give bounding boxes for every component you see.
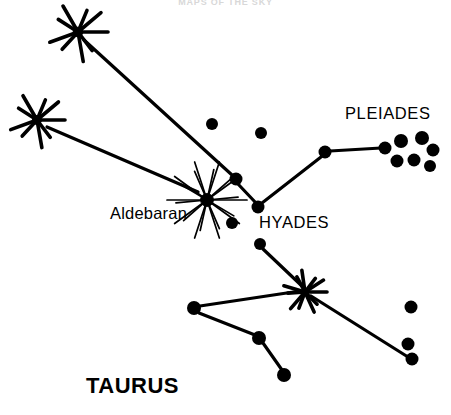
starburst-icon bbox=[11, 96, 65, 148]
constellation-line bbox=[199, 313, 255, 335]
star-map-canvas bbox=[0, 0, 451, 415]
star-dot bbox=[394, 134, 408, 148]
star-core bbox=[73, 27, 83, 37]
star-dot bbox=[187, 301, 201, 315]
constellation-line bbox=[330, 148, 381, 151]
label-aldebaran: Aldebaran bbox=[110, 205, 187, 222]
star-core bbox=[301, 288, 308, 295]
star-dot bbox=[254, 238, 266, 250]
star-dot bbox=[255, 127, 267, 139]
label-pleiades: PLEIADES bbox=[345, 105, 431, 122]
star-dot bbox=[252, 331, 266, 345]
star-core bbox=[33, 116, 42, 125]
star-dot bbox=[406, 353, 419, 366]
constellation-line bbox=[263, 343, 282, 370]
star-dot bbox=[415, 131, 429, 145]
constellation-line bbox=[200, 291, 300, 306]
star-dot bbox=[319, 146, 332, 159]
constellation-line bbox=[311, 296, 408, 357]
constellation-line bbox=[263, 249, 303, 287]
star-dot bbox=[226, 217, 238, 229]
constellation-line bbox=[262, 157, 321, 203]
star-dot bbox=[427, 144, 440, 157]
star-dot bbox=[402, 338, 415, 351]
label-hyades: HYADES bbox=[259, 214, 329, 231]
star-dot bbox=[206, 118, 218, 130]
star-dot bbox=[277, 368, 291, 382]
star-dot bbox=[230, 173, 243, 186]
label-taurus: TAURUS bbox=[86, 375, 179, 397]
star-dot bbox=[379, 142, 392, 155]
constellation-line bbox=[84, 40, 232, 175]
star-core bbox=[201, 194, 214, 207]
star-dot bbox=[408, 154, 421, 167]
constellation-lines-group bbox=[47, 40, 408, 370]
star-dot-group bbox=[187, 118, 440, 382]
star-dot bbox=[391, 155, 404, 168]
star-chart-figure: MAPS OF THE SKY PLEIADES HYADES Aldebara… bbox=[0, 0, 451, 415]
star-dot bbox=[252, 201, 265, 214]
constellation-line bbox=[47, 127, 198, 192]
star-dot bbox=[405, 301, 418, 314]
star-dot bbox=[424, 160, 436, 172]
